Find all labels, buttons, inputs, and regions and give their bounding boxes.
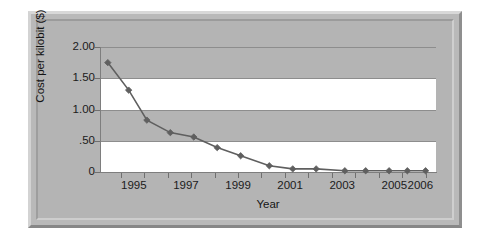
y-tick-label: 2.00 (73, 41, 95, 52)
gridline (100, 47, 436, 48)
y-tick-label: 1.50 (73, 72, 95, 83)
plot-band (100, 78, 436, 109)
y-tick-mark (94, 78, 100, 79)
x-axis-title: Year (100, 198, 436, 210)
x-tick-label: 1999 (213, 179, 263, 192)
x-tick-mark (238, 173, 239, 178)
x-tick-mark (261, 173, 262, 178)
x-tick-mark (355, 173, 356, 178)
x-tick-mark (215, 173, 216, 178)
y-tick-label: 1.00 (73, 104, 95, 115)
y-tick-mark (94, 110, 100, 111)
plot-band (100, 141, 436, 172)
x-tick-mark (191, 173, 192, 178)
gridline (100, 141, 436, 142)
y-tick-label: .50 (79, 135, 95, 146)
gridline (100, 110, 436, 111)
y-tick-labels: 2.001.501.00.500 (52, 0, 95, 239)
x-tick-mark (379, 173, 380, 178)
x-tick-mark (308, 173, 309, 178)
x-tick-label: 2003 (317, 179, 367, 192)
y-axis-line (100, 47, 101, 173)
x-tick-mark (402, 173, 403, 178)
x-tick-mark (285, 173, 286, 178)
x-tick-mark (144, 173, 145, 178)
y-tick-mark (94, 141, 100, 142)
x-tick-mark (121, 173, 122, 178)
x-axis-line (100, 172, 437, 173)
y-tick-mark (94, 172, 100, 173)
gridline (100, 78, 436, 79)
x-tick-mark (168, 173, 169, 178)
x-tick-label: 2001 (265, 179, 315, 192)
chart-figure: 2.001.501.00.500 19951997199920012003200… (0, 0, 482, 239)
y-axis-title: Cost per kilobit ($) (34, 0, 46, 126)
x-tick-mark (332, 173, 333, 178)
y-tick-mark (94, 47, 100, 48)
plot-area (100, 47, 436, 172)
x-tick-label: 1995 (109, 179, 159, 192)
x-tick-label: 2006 (395, 179, 445, 192)
x-tick-mark (426, 173, 427, 178)
x-tick-label: 1997 (161, 179, 211, 192)
